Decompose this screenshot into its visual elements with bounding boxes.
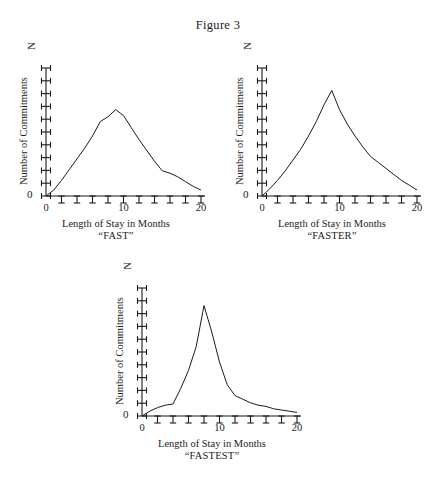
panel-title-faster: “FASTER” (232, 230, 432, 242)
x-axis-tick-labels-fastest: 01020 (112, 422, 312, 436)
panel-title-fastest: “FASTEST” (112, 450, 312, 462)
x-axis-tick-label: 0 (43, 202, 48, 213)
x-axis-tick-label: 20 (196, 202, 207, 213)
x-axis-tick-label: 10 (334, 202, 345, 213)
chart-panel-faster: N 0 Number of Commitments 01020 Length o… (232, 38, 432, 253)
x-axis-tick-labels-faster: 01020 (232, 202, 432, 216)
x-axis-label: Length of Stay in Months (278, 218, 386, 229)
x-axis-tick-label: 20 (412, 202, 423, 213)
data-series-line (142, 306, 297, 416)
data-series-line (262, 90, 417, 196)
plot-area-fastest (112, 258, 312, 438)
x-axis-caption-fastest: Length of Stay in Months “FASTEST” (112, 438, 312, 462)
x-axis-label: Length of Stay in Months (158, 438, 266, 449)
chart-panel-fastest: N 0 Number of Commitments 01020 Length o… (112, 258, 312, 473)
x-axis-tick-label: 0 (259, 202, 264, 213)
plot-area-faster (232, 38, 432, 218)
x-axis-tick-label: 10 (214, 422, 225, 433)
x-axis-tick-label: 20 (292, 422, 303, 433)
figure-title: Figure 3 (0, 18, 436, 33)
y-axis-label: Number of Commitments (114, 126, 125, 276)
x-axis-caption-faster: Length of Stay in Months “FASTER” (232, 218, 432, 242)
x-axis-tick-label: 0 (139, 422, 144, 433)
